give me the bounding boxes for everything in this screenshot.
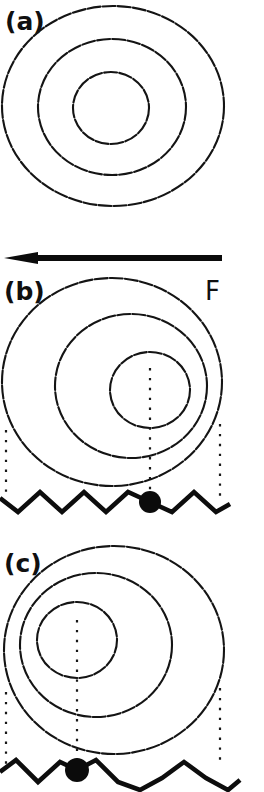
- panel-c-label: (c): [4, 549, 42, 578]
- panel-c-substrate: [0, 760, 240, 790]
- figure-root: (a) F (b) (c): [0, 0, 264, 792]
- panel-c-particle: [65, 758, 89, 782]
- panel-c-contour-middle: [20, 573, 172, 717]
- panel-a: (a): [2, 6, 224, 206]
- force-label: F: [205, 276, 220, 306]
- panel-b-label: (b): [4, 277, 45, 306]
- panel-a-contour-inner: [73, 72, 149, 144]
- panel-b-contour-middle: [55, 314, 207, 458]
- panel-b-particle: [139, 491, 161, 513]
- panel-b: (b): [0, 277, 230, 513]
- panel-b-substrate: [0, 492, 230, 512]
- figure-canvas: (a) F (b) (c): [0, 0, 264, 792]
- force-arrow-head: [4, 252, 38, 264]
- panel-a-contour-middle: [38, 39, 186, 175]
- panel-c: (c): [0, 546, 240, 790]
